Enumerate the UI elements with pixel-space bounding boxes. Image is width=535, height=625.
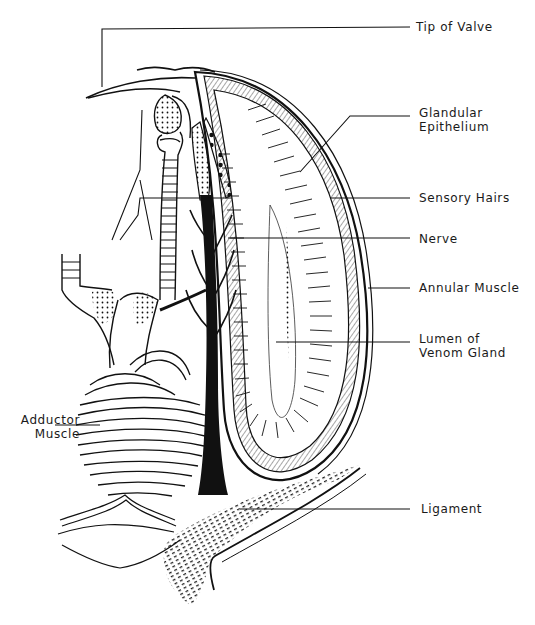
venom-gland [195, 70, 373, 480]
hair-bulbs [92, 289, 158, 325]
label-ligament: Ligament [421, 502, 482, 516]
label-nerve: Nerve [419, 232, 458, 246]
label-sensory-hairs: Sensory Hairs [419, 191, 510, 205]
label-adductor-muscle: Adductor Muscle [12, 413, 80, 441]
venom-gland-diagram [0, 0, 535, 625]
label-glandular-epithelium: Glandular Epithelium [419, 106, 489, 134]
label-lumen-of-venom-gland: Lumen of Venom Gland [419, 332, 506, 360]
label-tip-of-valve: Tip of Valve [416, 20, 493, 34]
leader-tip-of-valve [102, 27, 410, 87]
sensory-bulb-top [154, 95, 190, 138]
segmented-duct [157, 132, 182, 300]
label-annular-muscle: Annular Muscle [419, 281, 519, 295]
